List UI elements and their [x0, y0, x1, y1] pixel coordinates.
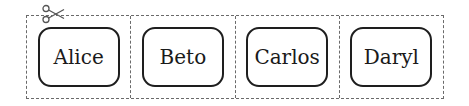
name-card-beto[interactable]: Beto: [142, 27, 224, 87]
cutout-cell: Daryl: [340, 16, 443, 98]
name-card-alice[interactable]: Alice: [38, 27, 120, 87]
name-card-daryl[interactable]: Daryl: [350, 27, 432, 87]
cutout-cell: Carlos: [236, 16, 340, 98]
cutout-cell: Alice: [27, 16, 131, 98]
name-card-carlos[interactable]: Carlos: [246, 27, 328, 87]
cutout-cell: Beto: [131, 16, 235, 98]
cutout-strip: Alice Beto Carlos Daryl: [26, 15, 444, 99]
